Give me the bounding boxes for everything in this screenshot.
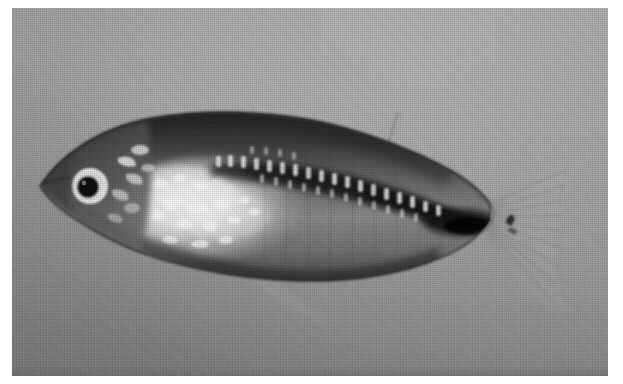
specimen-photograph xyxy=(12,8,608,376)
fish-stage xyxy=(12,8,608,376)
caudal-fin xyxy=(482,161,577,314)
fish-body xyxy=(40,102,496,281)
eye xyxy=(74,170,106,202)
photo-alt-text: Grayscale lateral photograph of a small … xyxy=(0,0,1,1)
fish-illustration xyxy=(12,8,608,376)
page-root: Grayscale lateral photograph of a small … xyxy=(0,0,623,384)
eye-pupil xyxy=(78,177,99,198)
